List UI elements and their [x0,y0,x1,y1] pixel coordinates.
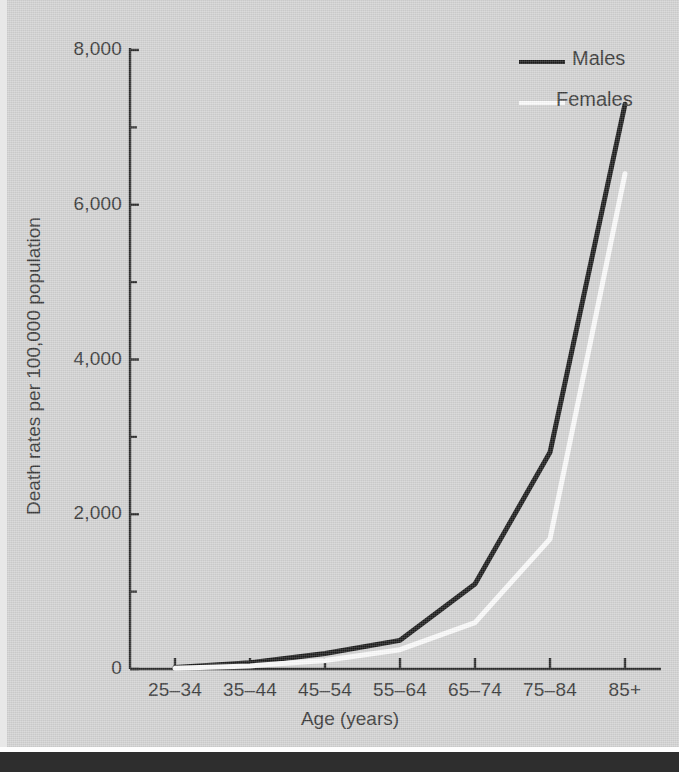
page-left-edge [0,0,7,748]
figure-page: 02,0004,0006,0008,000 25–3435–4445–5455–… [0,0,679,772]
x-axis-tick-label: 55–64 [357,679,443,701]
legend-label-females: Females [556,88,633,111]
y-axis-tick-label: 0 [30,657,122,679]
page-bottom-bar [0,752,679,772]
x-axis-tick-label: 85+ [582,679,668,701]
line-chart: 02,0004,0006,0008,000 25–3435–4445–5455–… [0,0,679,748]
legend-swatch-males [519,60,565,64]
legend-label-males: Males [572,47,625,70]
x-axis-tick-label: 25–34 [132,679,218,701]
y-axis-title: Death rates per 100,000 population [23,156,45,576]
axes [130,48,661,669]
x-axis-tick-label: 35–44 [207,679,293,701]
data-series-group [175,104,625,668]
y-axis-ticks [130,50,139,669]
x-axis-tick-label: 45–54 [282,679,368,701]
data-line-males [175,104,625,667]
x-axis-title: Age (years) [230,708,470,730]
plot-canvas [0,0,679,748]
x-axis-tick-label: 65–74 [432,679,518,701]
x-axis-tick-label: 75–84 [507,679,593,701]
y-axis-tick-label: 8,000 [30,38,122,60]
